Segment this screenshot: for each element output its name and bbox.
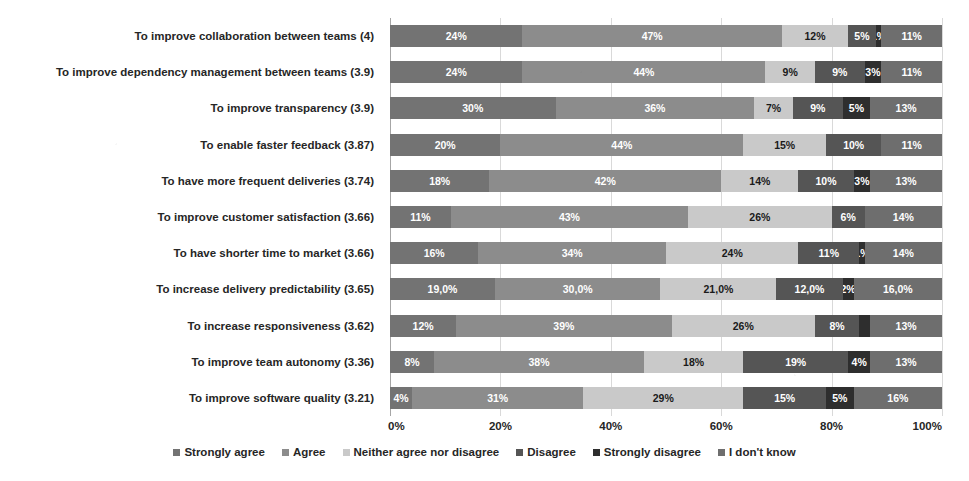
bar-segment-strongly-agree: 12% — [390, 315, 456, 337]
bar-segment-strongly-disagree — [859, 315, 870, 337]
category-axis-labels: To improve collaboration between teams (… — [0, 18, 382, 416]
legend-item[interactable]: Neither agree nor disagree — [343, 446, 500, 458]
bar-segment-i-don-t-know: 13% — [870, 315, 942, 337]
bar-segment-strongly-agree: 19,0% — [390, 278, 495, 300]
bar-segment-strongly-agree: 8% — [390, 351, 434, 373]
bar-segment-strongly-disagree: 5% — [843, 97, 871, 119]
bar-row: 4%31%29%15%5%16% — [390, 387, 942, 409]
bar-segment-agree: 47% — [522, 25, 781, 47]
legend-swatch-icon — [343, 449, 350, 456]
bar-segment-agree: 30,0% — [495, 278, 661, 300]
legend-swatch-icon — [718, 449, 725, 456]
legend-label: Disagree — [527, 446, 576, 458]
category-label: To enable faster feedback (3.87) — [200, 138, 374, 152]
bar-segment-neither-agree-nor-disagree: 26% — [688, 206, 832, 228]
bar-segment-neither-agree-nor-disagree: 18% — [644, 351, 743, 373]
bar-segment-neither-agree-nor-disagree: 12% — [782, 25, 848, 47]
bar-segment-neither-agree-nor-disagree: 7% — [754, 97, 793, 119]
x-tick-label: 100% — [913, 420, 942, 432]
bar-segment-agree: 43% — [451, 206, 688, 228]
bar-segment-i-don-t-know: 13% — [870, 97, 942, 119]
category-label: To have more frequent deliveries (3.74) — [161, 174, 374, 188]
bar-segment-i-don-t-know: 13% — [870, 351, 942, 373]
bar-segment-strongly-disagree: 2% — [843, 278, 854, 300]
bar-segment-agree: 44% — [500, 134, 743, 156]
bar-row: 8%38%18%19%4%13% — [390, 351, 942, 373]
legend-item[interactable]: Strongly disagree — [593, 446, 701, 458]
stacked-bar-chart: To improve collaboration between teams (… — [0, 0, 969, 481]
bar-segment-neither-agree-nor-disagree: 29% — [583, 387, 743, 409]
bar-segment-strongly-disagree: 5% — [826, 387, 854, 409]
bar-segment-disagree: 19% — [743, 351, 848, 373]
bar-segment-neither-agree-nor-disagree: 9% — [765, 61, 815, 83]
chart-legend: Strongly agreeAgreeNeither agree nor dis… — [0, 446, 969, 458]
bar-row: 24%44%9%9%3%11% — [390, 61, 942, 83]
bar-segment-i-don-t-know: 11% — [881, 25, 942, 47]
bar-segment-disagree: 11% — [798, 242, 859, 264]
category-label: To have shorter time to market (3.66) — [174, 246, 374, 260]
x-tick-label: 40% — [599, 420, 622, 432]
bar-segment-i-don-t-know: 14% — [865, 206, 942, 228]
bar-segment-strongly-agree: 20% — [390, 134, 500, 156]
bar-segment-agree: 38% — [434, 351, 644, 373]
bar-row: 16%34%24%11%1%14% — [390, 242, 942, 264]
category-label: To improve team autonomy (3.36) — [191, 355, 374, 369]
bar-row: 20%44%15%10%11% — [390, 134, 942, 156]
bar-segment-strongly-agree: 30% — [390, 97, 556, 119]
bar-segment-neither-agree-nor-disagree: 26% — [672, 315, 816, 337]
bar-segment-disagree: 15% — [743, 387, 826, 409]
bar-row: 18%42%14%10%3%13% — [390, 170, 942, 192]
bar-segment-agree: 36% — [556, 97, 755, 119]
bar-segment-agree: 44% — [522, 61, 765, 83]
legend-label: Strongly disagree — [604, 446, 701, 458]
category-label: To improve collaboration between teams (… — [135, 29, 374, 43]
legend-item[interactable]: Agree — [282, 446, 326, 458]
bar-segment-i-don-t-know: 11% — [881, 61, 942, 83]
bar-segment-neither-agree-nor-disagree: 24% — [666, 242, 798, 264]
x-axis-ticks: 0%20%40%60%80%100% — [390, 420, 942, 436]
legend-swatch-icon — [516, 449, 523, 456]
bar-segment-disagree: 12,0% — [776, 278, 842, 300]
bar-segment-agree: 31% — [412, 387, 583, 409]
category-label: To improve dependency management between… — [56, 65, 374, 79]
legend-swatch-icon — [173, 449, 180, 456]
x-tick-label: 60% — [710, 420, 733, 432]
bar-rows: 24%47%12%5%1%11%24%44%9%9%3%11%30%36%7%9… — [390, 18, 942, 416]
bar-segment-neither-agree-nor-disagree: 15% — [743, 134, 826, 156]
legend-item[interactable]: Disagree — [516, 446, 576, 458]
bar-segment-strongly-agree: 18% — [390, 170, 489, 192]
legend-label: Neither agree nor disagree — [354, 446, 500, 458]
bar-row: 30%36%7%9%5%13% — [390, 97, 942, 119]
bar-segment-agree: 39% — [456, 315, 671, 337]
x-tick-label: 20% — [489, 420, 512, 432]
legend-item[interactable]: Strongly agree — [173, 446, 265, 458]
bar-row: 24%47%12%5%1%11% — [390, 25, 942, 47]
legend-label: Agree — [293, 446, 326, 458]
bar-segment-agree: 34% — [478, 242, 666, 264]
bar-segment-i-don-t-know: 11% — [881, 134, 942, 156]
plot-area: 24%47%12%5%1%11%24%44%9%9%3%11%30%36%7%9… — [390, 18, 942, 416]
legend-swatch-icon — [593, 449, 600, 456]
bar-segment-agree: 42% — [489, 170, 721, 192]
bar-segment-strongly-agree: 24% — [390, 61, 522, 83]
bar-segment-i-don-t-know: 13% — [870, 170, 942, 192]
legend-item[interactable]: I don't know — [718, 446, 796, 458]
bar-segment-i-don-t-know: 16,0% — [854, 278, 942, 300]
bar-segment-i-don-t-know: 16% — [854, 387, 942, 409]
bar-segment-strongly-disagree: 3% — [865, 61, 882, 83]
bar-segment-strongly-disagree: 4% — [848, 351, 870, 373]
legend-label: Strongly agree — [184, 446, 265, 458]
category-label: To improve transparency (3.9) — [211, 101, 374, 115]
legend-label: I don't know — [729, 446, 796, 458]
category-label: To improve software quality (3.21) — [189, 391, 374, 405]
bar-segment-disagree: 9% — [793, 97, 843, 119]
bar-segment-strongly-agree: 11% — [390, 206, 451, 228]
bar-segment-disagree: 5% — [848, 25, 876, 47]
bar-row: 12%39%26%8%13% — [390, 315, 942, 337]
category-label: To improve customer satisfaction (3.66) — [158, 210, 374, 224]
bar-segment-neither-agree-nor-disagree: 21,0% — [660, 278, 776, 300]
bar-segment-disagree: 10% — [798, 170, 853, 192]
bar-row: 11%43%26%6%14% — [390, 206, 942, 228]
bar-row: 19,0%30,0%21,0%12,0%2%16,0% — [390, 278, 942, 300]
bar-segment-strongly-disagree: 3% — [854, 170, 871, 192]
